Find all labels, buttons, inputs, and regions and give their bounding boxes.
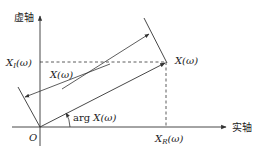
point-label: X(ω) [174,55,198,66]
angle-arc [66,113,70,127]
imaginary-axis-label: 虚轴 [14,11,34,23]
perp-line-right [144,18,167,63]
origin-label: O [29,132,37,143]
magnitude-arrow-mid [40,89,62,99]
real-component-label: XR(ω) [154,133,183,146]
real-axis-label: 实轴 [232,121,252,133]
imag-component-label: XI(ω) [5,57,32,70]
phasor-diagram: 虚轴 实轴 O XI(ω) XR(ω) X(ω) X(ω) arg X(ω) [0,0,260,153]
vector-magnitude-label: X(ω) [49,69,73,80]
magnitude-arrow-up [62,34,149,89]
angle-label: arg X(ω) [73,112,117,123]
perp-line-left [18,87,40,127]
